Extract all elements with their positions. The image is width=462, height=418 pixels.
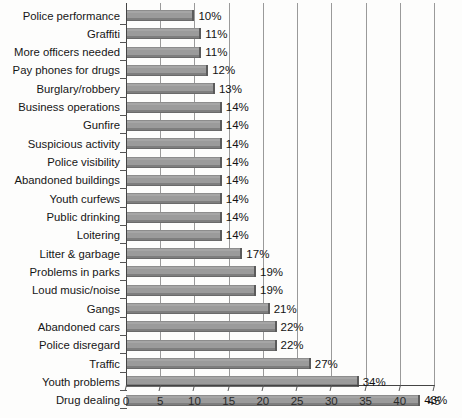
bar-value-label: 14% bbox=[226, 212, 249, 223]
category-label: More officers needed bbox=[2, 46, 120, 58]
bar-value-label: 14% bbox=[226, 157, 249, 168]
bar bbox=[126, 138, 222, 149]
bar bbox=[126, 10, 194, 21]
y-tick-mark bbox=[120, 243, 127, 244]
bar-value-label: 19% bbox=[260, 267, 283, 278]
bar-value-label: 27% bbox=[315, 359, 338, 370]
y-tick-mark bbox=[120, 188, 127, 189]
bar-value-label: 19% bbox=[260, 285, 283, 296]
bar bbox=[126, 285, 256, 296]
x-tick-mark-25 bbox=[296, 385, 298, 391]
category-label: Police performance bbox=[2, 10, 120, 22]
bar-value-label: 12% bbox=[212, 65, 235, 76]
gridline-40 bbox=[400, 3, 401, 385]
x-tick-mark-45 bbox=[433, 385, 435, 391]
bar-value-label: 14% bbox=[226, 102, 249, 113]
category-label: Police disregard bbox=[2, 339, 120, 351]
bar bbox=[126, 212, 222, 223]
gridline-45 bbox=[434, 3, 435, 385]
category-label: Business operations bbox=[2, 101, 120, 113]
bar-value-label: 43% bbox=[424, 395, 447, 406]
y-tick-mark bbox=[120, 335, 127, 336]
x-tick-label-10: 10 bbox=[179, 394, 209, 408]
bar-chart: Police performanceGraffitiMore officers … bbox=[0, 0, 462, 418]
y-tick-mark bbox=[120, 353, 127, 354]
bar-value-label: 14% bbox=[226, 120, 249, 131]
y-tick-mark bbox=[120, 115, 127, 116]
bar-value-label: 14% bbox=[226, 194, 249, 205]
gridline-35 bbox=[366, 3, 367, 385]
bar bbox=[126, 83, 215, 94]
category-label: Pay phones for drugs bbox=[2, 64, 120, 76]
x-tick-mark-40 bbox=[398, 385, 400, 391]
x-tick-label-25: 25 bbox=[282, 394, 312, 408]
y-tick-mark bbox=[120, 24, 127, 25]
bar bbox=[126, 340, 277, 351]
category-label: Litter & garbage bbox=[2, 248, 120, 260]
bar bbox=[126, 47, 201, 58]
y-tick-mark bbox=[120, 225, 127, 226]
category-label: Abandoned buildings bbox=[2, 174, 120, 186]
category-axis-labels: Police performanceGraffitiMore officers … bbox=[0, 0, 120, 418]
bar-value-label: 14% bbox=[226, 139, 249, 150]
bar-value-label: 13% bbox=[219, 84, 242, 95]
bar bbox=[126, 321, 277, 332]
category-label: Drug dealing bbox=[2, 394, 120, 406]
bar-value-label: 11% bbox=[205, 29, 227, 40]
category-label: Problems in parks bbox=[2, 266, 120, 278]
category-label: Traffic bbox=[2, 358, 120, 370]
bar bbox=[126, 120, 222, 131]
bar bbox=[126, 248, 242, 259]
bar-value-label: 21% bbox=[274, 304, 297, 315]
x-tick-label-15: 15 bbox=[214, 394, 244, 408]
bar bbox=[126, 358, 311, 369]
y-tick-mark bbox=[120, 262, 127, 263]
category-label: Burglary/robbery bbox=[2, 83, 120, 95]
y-tick-mark bbox=[120, 317, 127, 318]
x-tick-mark-20 bbox=[261, 385, 263, 391]
y-tick-mark bbox=[120, 78, 127, 79]
y-tick-mark bbox=[120, 207, 127, 208]
y-tick-mark bbox=[120, 408, 127, 409]
bar bbox=[126, 175, 222, 186]
gridline-30 bbox=[331, 3, 332, 385]
y-tick-mark bbox=[120, 97, 127, 98]
bar bbox=[126, 230, 222, 241]
x-tick-label-20: 20 bbox=[248, 394, 278, 408]
bar-value-label: 17% bbox=[246, 249, 269, 260]
y-tick-mark bbox=[120, 133, 127, 134]
bar bbox=[126, 157, 222, 168]
x-tick-label-0: 0 bbox=[111, 394, 141, 408]
category-label: Public drinking bbox=[2, 211, 120, 223]
bar-value-label: 11% bbox=[205, 47, 227, 58]
y-tick-mark bbox=[120, 170, 127, 171]
bar bbox=[126, 65, 208, 76]
bar-value-label: 22% bbox=[281, 340, 304, 351]
category-label: Youth problems bbox=[2, 376, 120, 388]
category-label: Youth curfews bbox=[2, 193, 120, 205]
x-tick-label-5: 5 bbox=[145, 394, 175, 408]
x-tick-label-35: 35 bbox=[351, 394, 381, 408]
y-tick-mark bbox=[120, 372, 127, 373]
y-tick-mark bbox=[120, 152, 127, 153]
x-tick-label-40: 40 bbox=[385, 394, 415, 408]
bar bbox=[126, 102, 222, 113]
y-tick-mark bbox=[120, 42, 127, 43]
bar bbox=[126, 303, 270, 314]
y-tick-mark bbox=[120, 60, 127, 61]
category-label: Loud music/noise bbox=[2, 284, 120, 296]
bar-value-label: 34% bbox=[363, 377, 386, 388]
y-tick-mark bbox=[120, 298, 127, 299]
bar bbox=[126, 28, 201, 39]
category-label: Graffiti bbox=[2, 28, 120, 40]
category-label: Gunfire bbox=[2, 119, 120, 131]
bar-value-label: 14% bbox=[226, 230, 249, 241]
category-label: Loitering bbox=[2, 229, 120, 241]
category-label: Suspicious activity bbox=[2, 138, 120, 150]
bar-value-label: 14% bbox=[226, 175, 249, 186]
x-tick-label-30: 30 bbox=[316, 394, 346, 408]
bar-value-label: 22% bbox=[281, 322, 304, 333]
y-tick-mark bbox=[120, 390, 127, 391]
category-label: Abandoned cars bbox=[2, 321, 120, 333]
x-axis-line bbox=[126, 385, 435, 386]
